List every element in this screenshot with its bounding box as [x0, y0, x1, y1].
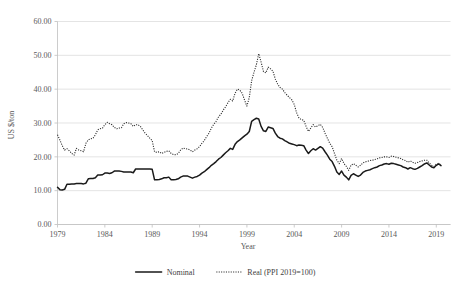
series-line-real [58, 54, 442, 171]
series-line-nominal [58, 118, 442, 190]
y-axis-title: US $/ton [7, 111, 16, 140]
legend-label: Real (PPI 2019=100) [247, 268, 315, 277]
y-tick-label: 30.00 [34, 119, 52, 128]
x-tick-label: 1989 [144, 230, 160, 239]
y-tick-label: 10.00 [34, 186, 52, 195]
x-tick-label: 1994 [192, 230, 208, 239]
legend-item[interactable]: Nominal [136, 268, 196, 277]
chart-canvas: 0.0010.0020.0030.0040.0050.0060.00 19791… [0, 0, 458, 293]
x-tick-label: 2014 [381, 230, 397, 239]
y-tick-label: 20.00 [34, 153, 52, 162]
x-axis-tick-labels: 197919841989199419992004200920142019 [50, 225, 445, 239]
y-axis-tick-labels: 0.0010.0020.0030.0040.0050.0060.00 [34, 17, 58, 229]
x-tick-label: 2009 [334, 230, 350, 239]
chart-figure: 0.0010.0020.0030.0040.0050.0060.00 19791… [0, 0, 458, 293]
y-tick-label: 60.00 [34, 17, 52, 26]
x-tick-label: 1984 [97, 230, 113, 239]
chart-legend: NominalReal (PPI 2019=100) [136, 268, 316, 277]
gridlines [58, 22, 451, 225]
x-tick-label: 1999 [239, 230, 255, 239]
y-tick-label: 40.00 [34, 85, 52, 94]
y-tick-label: 0.00 [38, 220, 52, 229]
x-tick-label: 1979 [50, 230, 66, 239]
legend-item[interactable]: Real (PPI 2019=100) [216, 268, 315, 277]
y-tick-label: 50.00 [34, 51, 52, 60]
x-tick-label: 2004 [286, 230, 302, 239]
legend-label: Nominal [167, 268, 196, 277]
x-tick-label: 2019 [428, 230, 444, 239]
x-axis-title: Year [241, 242, 256, 251]
data-series [58, 54, 442, 190]
